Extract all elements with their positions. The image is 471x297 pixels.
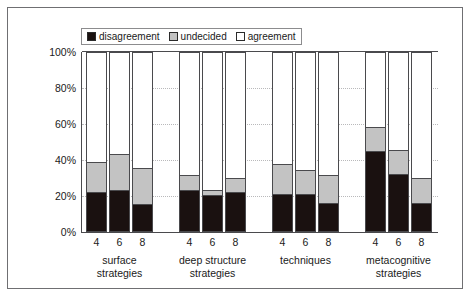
y-tick-label: 100%	[49, 46, 76, 58]
bar-segment-disagreement	[366, 151, 385, 231]
bar-segment-undecided	[412, 178, 431, 203]
group-label: deep structure strategies	[161, 254, 264, 279]
legend-entry-undecided: undecided	[169, 32, 227, 42]
y-axis: 0%20%40%60%80%100%	[8, 52, 81, 232]
bar-segment-disagreement	[87, 192, 106, 231]
bar-segment-undecided	[273, 164, 292, 194]
chart-figure-frame: disagreementundecidedagreement 0%20%40%6…	[7, 7, 463, 289]
group-label: metacognitive strategies	[347, 254, 450, 279]
x-tick-label: 6	[202, 236, 223, 248]
group-label: techniques	[254, 254, 357, 267]
bar-8[interactable]	[132, 52, 153, 232]
legend-swatch-agreement	[236, 32, 245, 41]
group-label: surface strategies	[68, 254, 171, 279]
x-tick-label: 8	[225, 236, 246, 248]
legend-entry-agreement: agreement	[236, 32, 296, 42]
y-tick-label: 80%	[55, 82, 76, 94]
y-tick-label: 40%	[55, 154, 76, 166]
bar-segment-disagreement	[389, 174, 408, 231]
bar-6[interactable]	[202, 52, 223, 232]
x-tick-label: 6	[388, 236, 409, 248]
chart-legend: disagreementundecidedagreement	[81, 28, 302, 45]
bar-segment-undecided	[180, 175, 199, 189]
bar-8[interactable]	[411, 52, 432, 232]
bar-segment-disagreement	[273, 194, 292, 231]
x-tick-label: 4	[365, 236, 386, 248]
x-tick-label: 4	[179, 236, 200, 248]
legend-entry-disagreement: disagreement	[87, 32, 160, 42]
bar-segment-disagreement	[133, 204, 152, 231]
legend-label: agreement	[248, 32, 296, 42]
bar-segment-disagreement	[203, 195, 222, 231]
legend-label: undecided	[181, 32, 227, 42]
bar-8[interactable]	[225, 52, 246, 232]
bar-segment-disagreement	[412, 203, 431, 231]
x-tick-label: 8	[318, 236, 339, 248]
x-tick-label: 4	[86, 236, 107, 248]
bar-segment-undecided	[110, 154, 129, 190]
y-tick-label: 20%	[55, 190, 76, 202]
bars-layer	[81, 52, 437, 232]
x-tick-label: 8	[411, 236, 432, 248]
bar-segment-disagreement	[110, 190, 129, 231]
bar-segment-disagreement	[226, 192, 245, 231]
bar-segment-undecided	[133, 168, 152, 204]
bar-segment-undecided	[366, 127, 385, 151]
bar-4[interactable]	[86, 52, 107, 232]
bar-segment-undecided	[319, 175, 338, 203]
bar-4[interactable]	[365, 52, 386, 232]
x-tick-label: 4	[272, 236, 293, 248]
x-tick-label: 8	[132, 236, 153, 248]
bar-4[interactable]	[179, 52, 200, 232]
bar-segment-disagreement	[180, 190, 199, 231]
bar-6[interactable]	[295, 52, 316, 232]
bar-segment-undecided	[87, 162, 106, 193]
bar-segment-disagreement	[319, 203, 338, 231]
bar-8[interactable]	[318, 52, 339, 232]
x-axis: 468surface strategies468deep structure s…	[81, 236, 437, 288]
x-tick-label: 6	[295, 236, 316, 248]
x-tick-label: 6	[109, 236, 130, 248]
bar-segment-undecided	[296, 170, 315, 194]
bar-segment-undecided	[226, 178, 245, 192]
legend-swatch-disagreement	[87, 32, 96, 41]
bar-6[interactable]	[109, 52, 130, 232]
bar-4[interactable]	[272, 52, 293, 232]
bar-segment-disagreement	[296, 194, 315, 231]
y-tick-label: 0%	[61, 226, 76, 238]
legend-swatch-undecided	[169, 32, 178, 41]
legend-label: disagreement	[99, 32, 160, 42]
y-tick-label: 60%	[55, 118, 76, 130]
bar-segment-undecided	[389, 150, 408, 174]
bar-6[interactable]	[388, 52, 409, 232]
